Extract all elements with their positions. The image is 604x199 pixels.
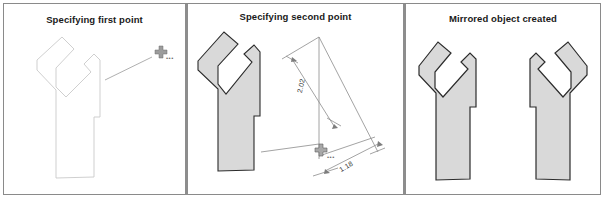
panel-specifying-first-point: Specifying first point ••• <box>4 4 185 195</box>
panel-mirrored-object-created: Mirrored object created <box>406 4 600 195</box>
mirror-illustration-figure: Specifying first point ••• Specifying se… <box>0 0 604 199</box>
panel-specifying-second-point: Specifying second point <box>188 4 403 195</box>
mirrored-y-object <box>530 42 587 180</box>
panel-3-graphics <box>406 4 600 195</box>
panel-1-graphics <box>4 4 185 195</box>
cursor-trail-dots: ••• <box>166 55 174 61</box>
cursor-trail-dots: ••• <box>327 154 335 160</box>
y-shaped-object-filled <box>198 32 260 171</box>
dimension-arrowheads <box>291 57 383 174</box>
rubber-band-line <box>105 57 152 80</box>
original-y-object <box>419 42 476 180</box>
panel-2-graphics <box>188 4 403 195</box>
y-shaped-object-outline <box>37 37 100 178</box>
